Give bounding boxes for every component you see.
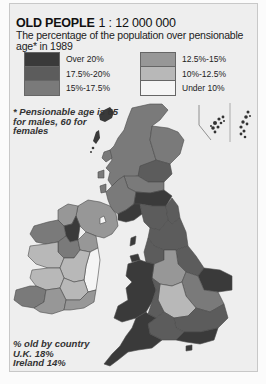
country-percentages: % old by country U.K. 18% Ireland 14% [13, 339, 90, 368]
pensionable-age-note: * Pensionable age is 65 for males, 60 fo… [13, 107, 123, 136]
inset-line [199, 105, 211, 140]
isle-of-man [130, 236, 136, 246]
region-borders [134, 190, 172, 206]
footer-ireland: Ireland 14% [13, 358, 90, 368]
orkney-inset [210, 116, 225, 134]
isle-of-wight [186, 345, 192, 351]
british-isles-map [0, 0, 266, 384]
region-south-west [104, 312, 162, 366]
shetland-inset [239, 111, 251, 139]
